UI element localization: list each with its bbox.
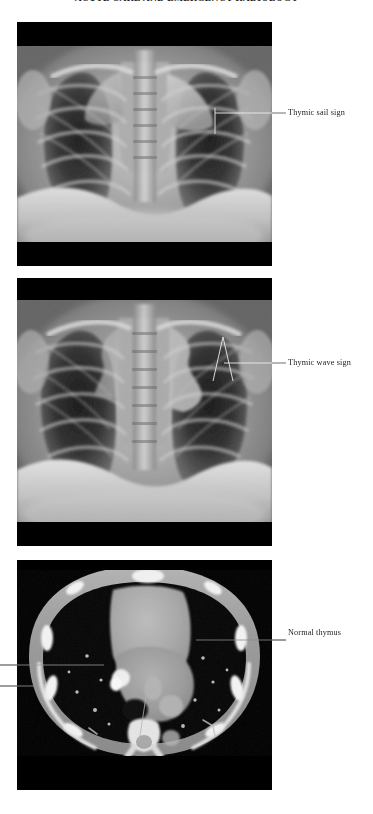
annotation-label-normal-thymus: Normal thymus (288, 628, 341, 637)
figure-panel-chest-radiograph-wave (17, 278, 272, 546)
running-head: ACUTE CARE AND EMERGENCY RADIOLOGY (0, 0, 373, 3)
annotation-label-thymic-sail-sign: Thymic sail sign (288, 108, 345, 117)
figure-panel-chest-ct-thymus (17, 560, 272, 790)
radiograph-wave-image (17, 278, 272, 546)
figure-panel-chest-radiograph-sail (17, 22, 272, 266)
ct-thymus-image (17, 560, 272, 790)
annotation-label-thymic-wave-sign: Thymic wave sign (288, 358, 351, 367)
radiograph-sail-image (17, 22, 272, 266)
